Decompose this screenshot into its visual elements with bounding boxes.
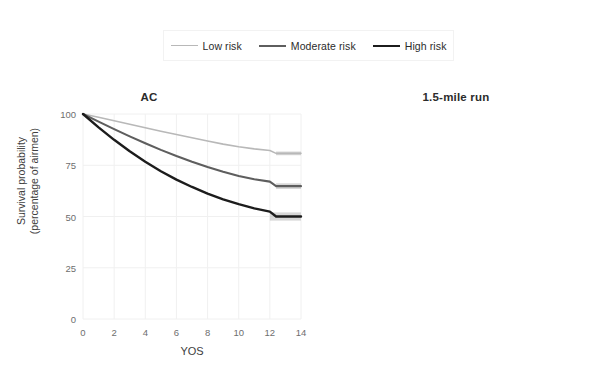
y-tick-label: 75 — [65, 160, 76, 171]
x-tick-label: 10 — [233, 327, 244, 338]
x-tick-label: 0 — [80, 327, 85, 338]
plot-svg-ac — [83, 114, 301, 319]
x-tick-label: 4 — [143, 327, 148, 338]
x-tick-label: 12 — [265, 327, 276, 338]
x-tick-label: 8 — [205, 327, 210, 338]
x-tick-label: 2 — [111, 327, 116, 338]
y-tick-label: 50 — [65, 211, 76, 222]
panel-title-ac: AC — [0, 91, 320, 103]
x-tick-label: 14 — [296, 327, 307, 338]
x-axis-label-ac: YOS — [83, 345, 301, 357]
survival-probability-figure: Low risk Moderate risk High risk Surviva… — [0, 0, 614, 383]
x-tick-label: 6 — [174, 327, 179, 338]
y-tick-label: 100 — [60, 109, 76, 120]
y-tick-label: 0 — [71, 314, 76, 325]
y-tick-label: 25 — [65, 262, 76, 273]
panel-run: 1.5-mile run 025507510002468101214 YOS — [312, 0, 614, 383]
plot-area-ac: 025507510002468101214 YOS — [83, 114, 301, 319]
panel-title-run: 1.5-mile run — [312, 91, 614, 103]
panel-ac: AC 025507510002468101214 YOS — [0, 0, 320, 383]
